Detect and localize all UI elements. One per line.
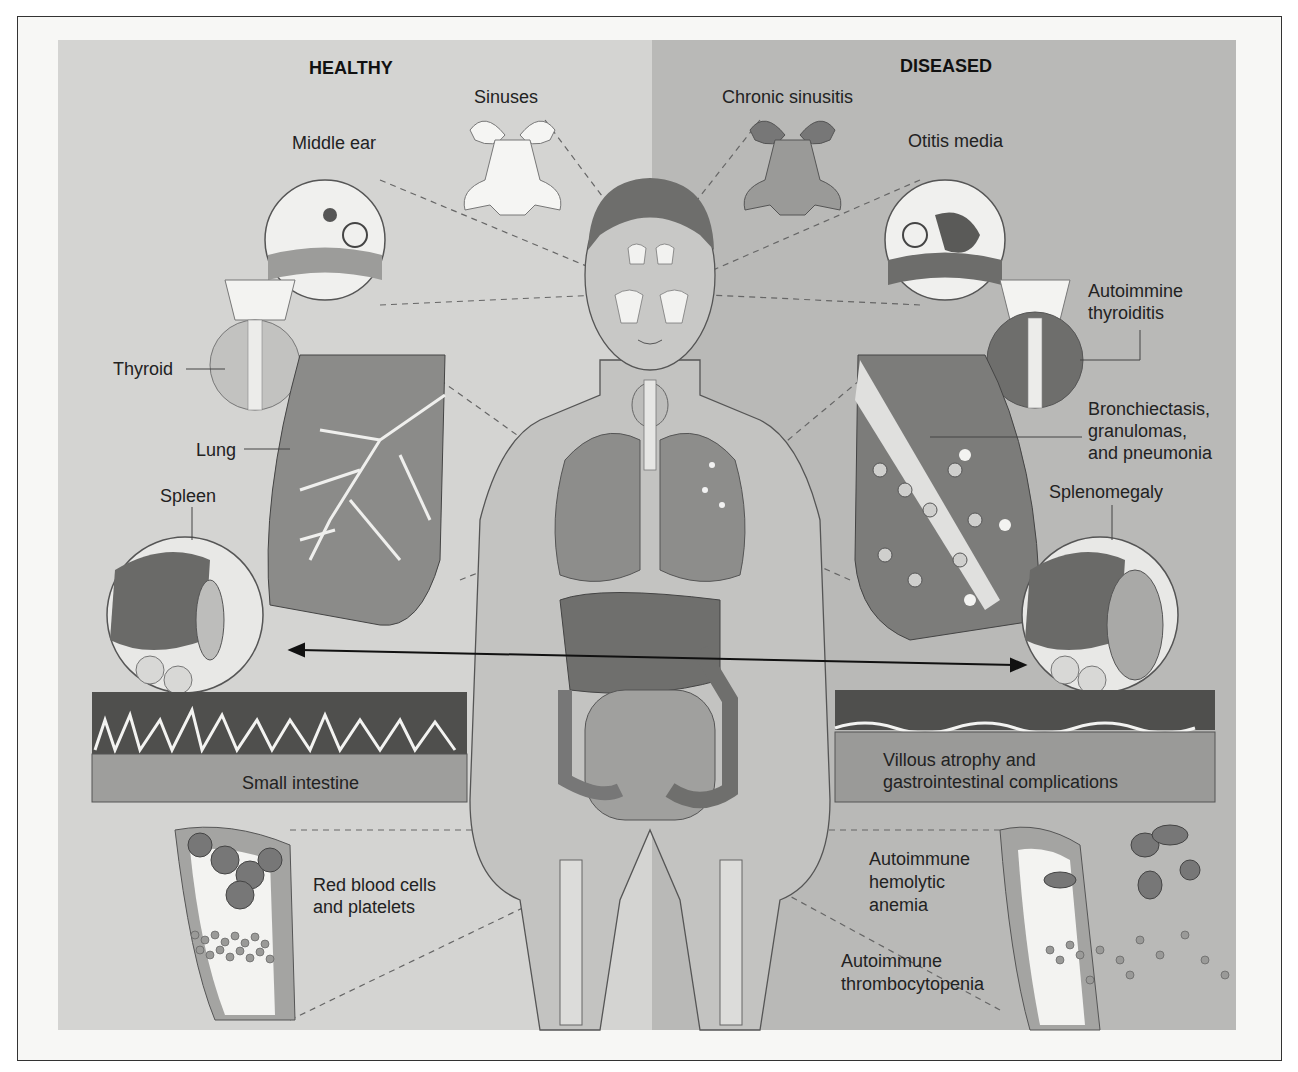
- label-lung-disease-1: Bronchiectasis,: [1088, 398, 1210, 420]
- label-villous-atrophy-1: Villous atrophy and: [883, 749, 1036, 771]
- healthy-spleen-circle: [107, 537, 263, 694]
- diseased-spleen-circle: [1022, 537, 1178, 694]
- label-villous-atrophy-2: gastrointestinal complications: [883, 771, 1118, 793]
- heading-healthy: HEALTHY: [309, 58, 393, 79]
- healthy-thyroid: [210, 280, 300, 410]
- label-hemolytic-anemia-1: Autoimmune: [869, 848, 970, 870]
- heading-diseased: DISEASED: [900, 56, 992, 77]
- label-thyroiditis-1: Autoimmine: [1088, 280, 1183, 302]
- label-thyroid: Thyroid: [113, 358, 173, 380]
- label-thyroiditis-2: thyroiditis: [1088, 302, 1164, 324]
- healthy-lung-section: [268, 355, 445, 625]
- healthy-bone-marrow: [175, 827, 295, 1020]
- label-lung: Lung: [196, 439, 236, 461]
- label-lung-disease-2: granulomas,: [1088, 420, 1187, 442]
- label-spleen: Spleen: [160, 485, 216, 507]
- human-figure: [470, 178, 830, 1030]
- label-lung-disease-3: and pneumonia: [1088, 442, 1212, 464]
- label-sinuses: Sinuses: [474, 86, 538, 108]
- label-hemolytic-anemia-3: anemia: [869, 894, 928, 916]
- healthy-sinuses-diagram: [464, 121, 561, 215]
- label-middle-ear: Middle ear: [292, 132, 376, 154]
- label-thrombocytopenia-1: Autoimmune: [841, 950, 942, 972]
- label-red-blood-cells-1: Red blood cells: [313, 874, 436, 896]
- label-chronic-sinusitis: Chronic sinusitis: [722, 86, 853, 108]
- label-hemolytic-anemia-2: hemolytic: [869, 871, 945, 893]
- diseased-ear-circle: [885, 180, 1005, 300]
- label-red-blood-cells-2: and platelets: [313, 896, 415, 918]
- diseased-thyroid: [987, 280, 1083, 408]
- label-splenomegaly: Splenomegaly: [1049, 481, 1163, 503]
- label-otitis-media: Otitis media: [908, 130, 1003, 152]
- anatomy-illustration: [0, 0, 1298, 1072]
- label-small-intestine: Small intestine: [242, 772, 359, 794]
- label-thrombocytopenia-2: thrombocytopenia: [841, 973, 984, 995]
- diseased-sinuses-diagram: [744, 121, 841, 215]
- diseased-bone-marrow: [1000, 825, 1229, 1030]
